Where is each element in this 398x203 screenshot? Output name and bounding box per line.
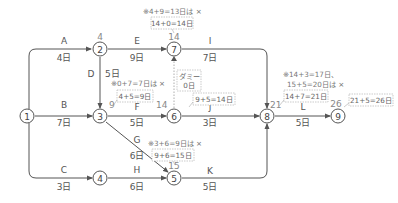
activity-b-name: B — [61, 100, 67, 110]
activity-e-name: E — [134, 36, 140, 46]
note-8-text-2: 15+5=20日は × — [287, 80, 344, 89]
activity-d-name: D — [88, 69, 95, 79]
activity-g-name: G — [134, 135, 141, 145]
activity-f-duration: 5日 — [130, 118, 145, 128]
activity-l-duration: 5日 — [296, 118, 311, 128]
node-1: 1 — [20, 109, 34, 123]
activity-i-name: I — [209, 36, 212, 46]
activity-c-name: C — [61, 165, 67, 175]
network-diagram: 1 2 4 3 9 4 5 15 6 14 7 14 8 21 9 26 A 4… — [0, 0, 398, 203]
svg-text:5: 5 — [171, 174, 177, 184]
activity-d-duration: 5日 — [105, 69, 120, 79]
activity-l-name: L — [300, 102, 305, 112]
activity-g-duration: 6日 — [130, 151, 145, 161]
activity-c-duration: 3日 — [57, 182, 72, 192]
note-6-leader — [189, 102, 193, 107]
activity-b-duration: 7日 — [57, 118, 72, 128]
node-5: 5 15 — [167, 161, 181, 185]
note-7-text: ※4+9=13日は × — [143, 7, 202, 16]
activity-k-name: K — [207, 166, 214, 176]
note-8-box-text: 14+7=21日 — [285, 92, 327, 101]
activity-h-name: H — [134, 165, 141, 175]
activity-f-name: F — [134, 102, 139, 112]
activity-h-duration: 6日 — [130, 182, 145, 192]
node-3: 3 9 — [93, 100, 115, 123]
dummy-duration: 0日 — [183, 81, 195, 90]
note-3-box-text: 4+5=9日 — [119, 92, 152, 101]
svg-text:4: 4 — [97, 32, 103, 42]
note-6-box-text: 9+5=14日 — [195, 95, 232, 104]
activity-j-duration: 3日 — [203, 118, 218, 128]
edge-k — [182, 124, 267, 178]
node-2: 2 4 — [93, 32, 107, 56]
svg-text:26: 26 — [330, 99, 342, 109]
svg-text:14: 14 — [168, 32, 180, 42]
svg-text:7: 7 — [171, 45, 177, 55]
node-8: 8 21 — [260, 100, 281, 123]
svg-text:4: 4 — [97, 174, 103, 184]
svg-text:14: 14 — [156, 100, 168, 110]
svg-text:8: 8 — [264, 112, 270, 122]
svg-text:3: 3 — [97, 112, 103, 122]
note-7-box-text: 14+0=14日 — [151, 19, 193, 28]
activity-k-duration: 5日 — [203, 182, 218, 192]
note-3-text: ※0+7=7日は × — [111, 79, 165, 88]
note-5-box-text: 9+6=15日 — [154, 151, 191, 160]
note-9-leader — [344, 103, 349, 107]
activity-a-name: A — [61, 36, 68, 46]
activity-a-duration: 4日 — [57, 53, 72, 63]
node-4: 4 — [93, 171, 107, 185]
svg-text:1: 1 — [24, 112, 30, 122]
note-5-text: ※3+6=9日は × — [148, 139, 202, 148]
node-6: 6 14 — [156, 100, 181, 123]
activity-i-duration: 7日 — [203, 53, 218, 63]
note-8-text-1: ※14+3=17日、 — [283, 70, 338, 79]
node-9: 9 26 — [330, 99, 345, 123]
dummy-name: ダミー — [179, 72, 200, 81]
svg-text:6: 6 — [171, 112, 177, 122]
dummy-arrowhead — [171, 56, 177, 61]
activity-e-duration: 9日 — [130, 53, 145, 63]
svg-text:2: 2 — [97, 45, 103, 55]
note-9-box-text: 21+5=26日 — [350, 96, 392, 105]
svg-text:9: 9 — [109, 100, 115, 110]
svg-text:9: 9 — [335, 112, 341, 122]
node-7: 7 14 — [167, 32, 181, 56]
